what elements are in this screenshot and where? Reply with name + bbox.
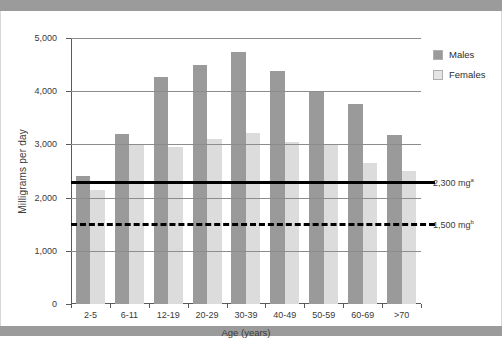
reference-line-2300 <box>71 181 435 184</box>
bar-layer <box>71 38 421 304</box>
x-tick-mark <box>265 304 266 308</box>
gridline <box>71 38 421 39</box>
bar-males <box>387 135 402 304</box>
bar-group <box>110 38 149 304</box>
x-tick-mark <box>421 304 422 308</box>
legend-swatch-females-icon <box>433 70 443 80</box>
bar-males <box>115 134 130 304</box>
x-tick-mark <box>304 304 305 308</box>
bar-group <box>71 38 110 304</box>
legend-label-females: Females <box>449 69 485 80</box>
figure-card: Milligrams per day 01,0002,0003,0004,000… <box>0 11 502 326</box>
gridline <box>71 91 421 92</box>
legend: Males Females <box>433 49 485 89</box>
reference-note-2300: 2,300 mga <box>433 176 474 187</box>
bar-group <box>382 38 421 304</box>
bar-males <box>348 104 363 304</box>
legend-item-females: Females <box>433 69 485 80</box>
legend-swatch-males-icon <box>433 50 443 60</box>
bar-group <box>188 38 227 304</box>
y-tick-label: 1,000 <box>34 246 57 256</box>
bar-males <box>154 77 169 304</box>
x-tick-label: 2-5 <box>84 310 97 320</box>
y-tick-label: 0 <box>52 299 57 309</box>
x-tick-label: >70 <box>394 310 409 320</box>
bar-females <box>90 190 105 304</box>
x-tick-label: 6-11 <box>121 310 138 320</box>
legend-item-males: Males <box>433 49 485 60</box>
x-tick-label: 12-19 <box>157 310 180 320</box>
x-tick-label: 40-49 <box>273 310 296 320</box>
bar-group <box>265 38 304 304</box>
y-axis-ticks: 01,0002,0003,0004,0005,000 <box>1 38 67 304</box>
bar-females <box>363 163 378 304</box>
bar-group <box>343 38 382 304</box>
y-tick-label: 4,000 <box>34 86 57 96</box>
bar-females <box>207 139 222 304</box>
x-tick-mark <box>227 304 228 308</box>
bar-males <box>193 65 208 304</box>
bar-males <box>270 71 285 304</box>
bar-males <box>231 52 246 304</box>
x-tick-mark <box>149 304 150 308</box>
top-banner <box>0 0 502 11</box>
reference-line-1500 <box>71 223 435 226</box>
x-tick-mark <box>382 304 383 308</box>
x-tick-label: 50-59 <box>312 310 335 320</box>
plot-area: 2-56-1112-1920-2930-3940-4950-5960-69>70 <box>71 38 421 304</box>
bar-females <box>402 171 417 304</box>
y-tick-label: 2,000 <box>34 193 57 203</box>
x-tick-label: 60-69 <box>351 310 374 320</box>
bar-females <box>246 133 261 304</box>
bar-group <box>227 38 266 304</box>
y-tick-label: 5,000 <box>34 33 57 43</box>
x-tick-mark <box>188 304 189 308</box>
y-tick-label: 3,000 <box>34 139 57 149</box>
legend-label-males: Males <box>449 49 474 60</box>
gridline <box>71 251 421 252</box>
x-tick-label: 30-39 <box>234 310 257 320</box>
bar-group <box>149 38 188 304</box>
gridline <box>71 198 421 199</box>
x-tick-mark <box>110 304 111 308</box>
gridline <box>71 144 421 145</box>
x-tick-label: 20-29 <box>196 310 219 320</box>
bar-group <box>304 38 343 304</box>
reference-note-1500: 1,500 mgb <box>433 219 474 230</box>
x-axis-title: Age (years) <box>71 327 421 338</box>
bar-males <box>76 176 91 304</box>
x-tick-mark <box>343 304 344 308</box>
x-tick-mark <box>71 304 72 308</box>
